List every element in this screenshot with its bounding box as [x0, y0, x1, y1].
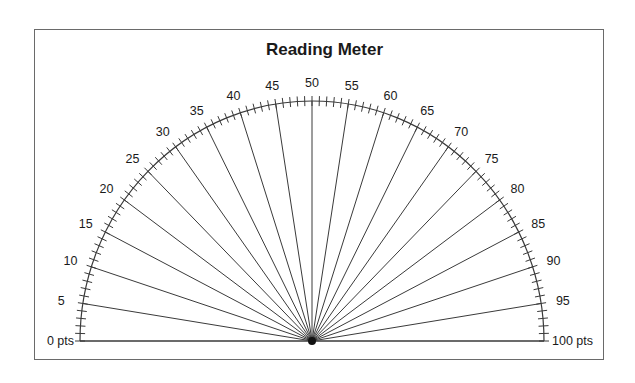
scale-label: 15	[79, 217, 93, 231]
tick-mark	[491, 191, 499, 197]
scale-label: 55	[345, 79, 359, 93]
radial-line	[312, 232, 519, 341]
tick-mark	[537, 310, 547, 311]
tick-mark	[496, 197, 504, 203]
tick-mark	[421, 126, 426, 135]
scale-label: 45	[265, 79, 279, 93]
scale-label: 50	[305, 76, 319, 90]
tick-mark	[428, 130, 433, 139]
scale-label: 25	[125, 152, 139, 166]
radial-line	[276, 104, 312, 341]
radial-line	[312, 104, 348, 341]
tick-mark	[487, 185, 495, 191]
radial-line	[176, 147, 312, 341]
tick-mark	[504, 210, 512, 215]
tick-mark	[434, 134, 439, 142]
tick-mark	[125, 191, 133, 197]
tick-mark	[120, 197, 128, 203]
scale-label: 95	[556, 294, 570, 308]
tick-mark	[517, 237, 526, 241]
tick-mark	[129, 185, 137, 191]
radial-line	[312, 147, 448, 341]
radial-line	[83, 303, 312, 341]
radial-line	[312, 113, 384, 341]
radial-line	[312, 303, 541, 341]
tick-mark	[185, 134, 190, 142]
tick-mark	[76, 318, 86, 319]
tick-mark	[539, 326, 549, 327]
scale-label: 20	[100, 182, 114, 196]
scale-label: 0 pts	[47, 334, 74, 348]
scale-label: 75	[485, 152, 499, 166]
radial-line	[207, 127, 312, 341]
tick-mark	[173, 143, 179, 151]
tick-mark	[116, 203, 124, 209]
radial-line	[148, 171, 312, 341]
radial-line	[240, 113, 312, 341]
radial-line	[105, 232, 312, 341]
radial-lines	[80, 101, 544, 341]
scale-label: 35	[190, 104, 204, 118]
tick-mark	[211, 119, 215, 128]
tick-mark	[98, 237, 107, 241]
tick-mark	[104, 223, 113, 228]
meter-hub	[308, 337, 316, 345]
tick-mark	[297, 96, 298, 106]
tick-mark	[290, 97, 291, 107]
tick-mark	[500, 203, 508, 209]
tick-mark	[445, 143, 451, 151]
tick-mark	[451, 147, 457, 155]
tick-mark	[75, 326, 85, 327]
tick-mark	[440, 138, 446, 146]
scale-labels: 0 pts51015202530354045505560657075808590…	[47, 76, 593, 348]
scale-label: 100 pts	[552, 334, 593, 348]
tick-mark	[101, 230, 110, 235]
tick-mark	[108, 216, 117, 221]
scale-label: 90	[547, 254, 561, 268]
scale-label: 85	[531, 217, 545, 231]
tick-mark	[191, 130, 196, 139]
radial-line	[312, 200, 500, 341]
radial-line	[124, 200, 312, 341]
scale-label: 10	[63, 254, 77, 268]
scale-label: 40	[227, 89, 241, 103]
tick-mark	[326, 96, 327, 106]
reading-meter-gauge: 0 pts51015202530354045505560657075808590…	[0, 0, 635, 383]
scale-label: 30	[156, 125, 170, 139]
radial-line	[312, 127, 417, 341]
tick-mark	[112, 210, 120, 215]
tick-mark	[507, 216, 516, 221]
tick-mark	[282, 98, 283, 108]
radial-line	[312, 171, 476, 341]
tick-mark	[77, 310, 87, 311]
scale-label: 70	[454, 125, 468, 139]
tick-mark	[409, 119, 413, 128]
tick-mark	[511, 223, 520, 228]
tick-mark	[167, 147, 173, 155]
tick-mark	[538, 318, 548, 319]
scale-label: 80	[511, 182, 525, 196]
radial-line	[91, 267, 312, 341]
tick-mark	[179, 138, 185, 146]
scale-label: 5	[58, 294, 65, 308]
tick-mark	[333, 97, 334, 107]
scale-label: 60	[384, 89, 398, 103]
scale-label: 65	[420, 104, 434, 118]
tick-mark	[340, 98, 341, 108]
tick-mark	[198, 126, 203, 135]
radial-line	[312, 267, 533, 341]
tick-mark	[514, 230, 523, 235]
tick-mark	[204, 123, 209, 132]
tick-mark	[415, 123, 420, 132]
